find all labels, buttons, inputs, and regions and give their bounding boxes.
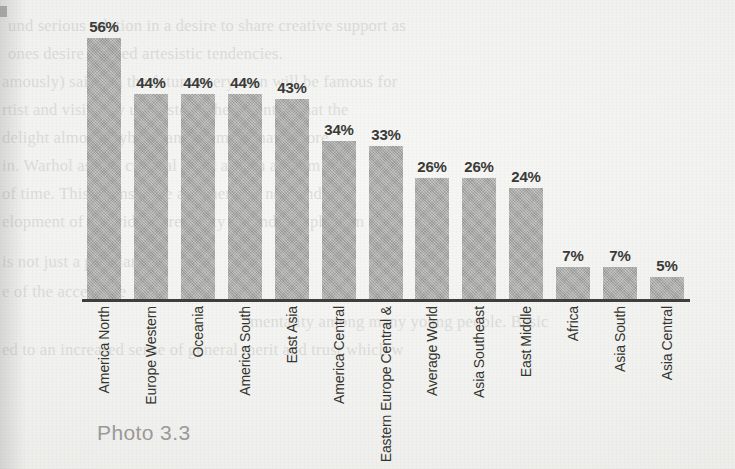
bar-value-label: 44% (175, 74, 221, 91)
category-label-word: World (424, 306, 440, 342)
bar-slot: 56% (85, 18, 123, 300)
category-label-word: Asia (612, 345, 628, 372)
bar-value-label: 44% (128, 74, 174, 91)
chart-bar (134, 94, 168, 300)
category-label-word: Asia (659, 353, 675, 380)
figure-caption: Photo 3.3 (97, 421, 191, 445)
chart-bar (509, 188, 543, 300)
chart-bar (462, 178, 496, 300)
bar-slot: 7% (601, 18, 639, 300)
chart-bar (228, 94, 262, 300)
category-label-word: East Asia (284, 306, 300, 363)
chart-bar (322, 141, 356, 300)
chart-bar (603, 267, 637, 300)
category-label-text: MiddleEast (518, 306, 534, 377)
category-label-word: Central (659, 306, 675, 350)
category-label-text: East Asia (284, 306, 300, 363)
category-label-word: America (331, 353, 347, 404)
category-label-text: CentralAmerica (331, 306, 347, 404)
category-label: SouthAmerica (226, 304, 264, 416)
category-label: Oceania (179, 304, 217, 416)
category-label-text: WesternEurope (143, 306, 159, 405)
category-label-text: NorthAmerica (96, 306, 112, 393)
bar-value-label: 24% (503, 168, 549, 185)
category-label-text: Central &Eastern Europe (378, 306, 394, 462)
category-label: CentralAsia (648, 304, 686, 416)
bar-slot: 26% (413, 18, 451, 300)
bar-slot: 44% (132, 18, 170, 300)
category-label-word: North (96, 306, 112, 340)
category-label-word: Central & (378, 306, 394, 363)
bar-slot: 44% (226, 18, 264, 300)
category-label-word: East (518, 350, 534, 378)
bar-value-label: 56% (81, 18, 127, 35)
chart-bar (181, 94, 215, 300)
bar-value-label: 26% (456, 158, 502, 175)
category-label-word: Eastern Europe (378, 366, 394, 462)
category-label: WesternEurope (132, 304, 170, 416)
bar-value-label: 34% (316, 121, 362, 138)
chart-baseline-axis (82, 299, 690, 302)
category-label-text: WorldAverage (424, 306, 440, 396)
category-label-text: CentralAsia (659, 306, 675, 380)
chart-bar (275, 99, 309, 300)
bar-value-label: 7% (597, 247, 643, 264)
category-label: SouthAsia (601, 304, 639, 416)
category-label-word: Oceania (190, 306, 206, 357)
category-label-text: SoutheastAsia (471, 306, 487, 398)
category-label-word: America (237, 345, 253, 396)
scanned-book-page: und serious relation in a desire to shar… (0, 0, 735, 469)
category-label: CentralAmerica (320, 304, 358, 416)
category-label-text: SouthAsia (612, 306, 628, 372)
category-label: MiddleEast (507, 304, 545, 416)
chart-category-axis-labels: NorthAmericaWesternEuropeOceaniaSouthAme… (82, 304, 692, 416)
bar-value-label: 26% (409, 158, 455, 175)
bar-slot: 44% (179, 18, 217, 300)
category-label-text: Oceania (190, 306, 206, 357)
category-label-word: South (237, 306, 253, 342)
bar-value-label: 43% (269, 79, 315, 96)
bar-slot: 26% (460, 18, 498, 300)
chart-bar (650, 277, 684, 300)
bar-slot: 34% (320, 18, 358, 300)
bar-value-label: 5% (644, 257, 690, 274)
category-label-word: South (612, 306, 628, 342)
bar-slot: 43% (273, 18, 311, 300)
bar-chart-figure: 56%44%44%44%43%34%33%26%26%24%7%7%5% Nor… (0, 0, 735, 469)
chart-bar (556, 267, 590, 300)
category-label-word: Asia (471, 371, 487, 398)
category-label-word: Average (424, 345, 440, 396)
bar-slot: 7% (554, 18, 592, 300)
chart-bar (415, 178, 449, 300)
category-label-text: SouthAmerica (237, 306, 253, 396)
category-label-word: Western (143, 306, 159, 357)
category-label: NorthAmerica (85, 304, 123, 416)
chart-plot-area: 56%44%44%44%43%34%33%26%26%24%7%7%5% (82, 18, 692, 300)
bar-slot: 24% (507, 18, 545, 300)
category-label: Africa (554, 304, 592, 416)
category-label: Central &Eastern Europe (367, 304, 405, 416)
category-label-word: Central (331, 306, 347, 350)
category-label-word: America (96, 343, 112, 394)
category-label-word: Middle (518, 306, 534, 347)
bar-value-label: 33% (363, 126, 409, 143)
category-label-word: Europe (143, 360, 159, 405)
bar-slot: 5% (648, 18, 686, 300)
bar-value-label: 7% (550, 247, 596, 264)
category-label: SoutheastAsia (460, 304, 498, 416)
bar-value-label: 44% (222, 74, 268, 91)
category-label: WorldAverage (413, 304, 451, 416)
category-label: East Asia (273, 304, 311, 416)
chart-bar (369, 146, 403, 300)
bar-slot: 33% (367, 18, 405, 300)
category-label-word: Africa (565, 306, 581, 341)
category-label-text: Africa (565, 306, 581, 341)
chart-bar (87, 38, 121, 300)
category-label-word: Southeast (471, 306, 487, 368)
